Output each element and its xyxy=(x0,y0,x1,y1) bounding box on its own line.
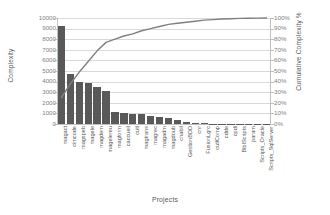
category-slot: magele xyxy=(84,126,93,194)
axis-tick-label: 4000 xyxy=(16,78,56,84)
category-slot: caccueil xyxy=(119,126,128,194)
axis-tick-mark xyxy=(271,92,274,93)
category-slot: Scripts_Oracle xyxy=(253,126,262,194)
axis-tick-mark xyxy=(54,39,57,40)
axis-tick-label: 9000 xyxy=(16,25,56,31)
x-axis-title: Projects xyxy=(0,196,330,203)
category-slot: cdde xyxy=(218,126,227,194)
plot-area xyxy=(57,18,271,124)
axis-tick-label: 10000 xyxy=(16,15,56,21)
category-slot: BiblScripts xyxy=(235,126,244,194)
axis-tick-label: 60% xyxy=(274,57,314,63)
axis-tick-mark xyxy=(54,60,57,61)
axis-tick-mark xyxy=(54,113,57,114)
category-slot: magelereu xyxy=(102,126,111,194)
axis-tick-label: 70% xyxy=(274,47,314,53)
category-slot: Scripts_SqlServer xyxy=(262,126,271,194)
axis-tick-label: 0 xyxy=(16,121,56,127)
axis-tick-label: 50% xyxy=(274,68,314,74)
category-slot: magact xyxy=(57,126,66,194)
category-slot: cimcode xyxy=(66,126,75,194)
axis-tick-label: 7000 xyxy=(16,47,56,53)
axis-tick-mark xyxy=(271,103,274,104)
category-label: Scripts_SqlServer xyxy=(269,126,275,171)
axis-tick-label: 1000 xyxy=(16,110,56,116)
axis-tick-label: 80% xyxy=(274,36,314,42)
axis-tick-mark xyxy=(54,29,57,30)
category-slot: magrec xyxy=(146,126,155,194)
axis-tick-mark xyxy=(54,71,57,72)
category-slot: magspeb xyxy=(75,126,84,194)
axis-tick-label: 40% xyxy=(274,78,314,84)
category-slot: param xyxy=(244,126,253,194)
pareto-chart: Complexity Cumulative Complexity % Proje… xyxy=(0,0,330,215)
category-slot: cpdi xyxy=(227,126,236,194)
axis-tick-mark xyxy=(54,82,57,83)
axis-tick-label: 90% xyxy=(274,25,314,31)
axis-tick-mark xyxy=(54,50,57,51)
category-slot: cutl xyxy=(128,126,137,194)
axis-tick-label: 3000 xyxy=(16,89,56,95)
axis-tick-label: 100% xyxy=(274,15,314,21)
category-slot: cutlComp xyxy=(209,126,218,194)
category-slot: GestionBDD xyxy=(182,126,191,194)
axis-tick-mark xyxy=(271,71,274,72)
category-slot: magadm xyxy=(155,126,164,194)
category-slot: magdoub xyxy=(164,126,173,194)
category-slot: cnr xyxy=(191,126,200,194)
axis-tick-mark xyxy=(271,18,274,19)
axis-tick-mark xyxy=(271,39,274,40)
axis-tick-label: 20% xyxy=(274,100,314,106)
axis-tick-label: 8000 xyxy=(16,36,56,42)
axis-tick-mark xyxy=(54,103,57,104)
axis-tick-label: 30% xyxy=(274,89,314,95)
axis-tick-mark xyxy=(54,92,57,93)
axis-tick-mark xyxy=(271,29,274,30)
category-slot: chabil xyxy=(173,126,182,194)
axis-tick-mark xyxy=(54,124,57,125)
x-axis-category-labels: magactcimcodemagspebmagelemagdemmagelere… xyxy=(57,126,271,194)
axis-tick-label: 2000 xyxy=(16,100,56,106)
axis-tick-label: 10% xyxy=(274,110,314,116)
axis-tick-mark xyxy=(271,60,274,61)
category-slot: magform xyxy=(111,126,120,194)
axis-tick-mark xyxy=(271,82,274,83)
category-slot: FusionLgrc xyxy=(200,126,209,194)
axis-tick-label: 6000 xyxy=(16,57,56,63)
axis-tick-mark xyxy=(271,50,274,51)
axis-tick-label: 5000 xyxy=(16,68,56,74)
category-slot: magdem xyxy=(93,126,102,194)
axis-tick-mark xyxy=(54,18,57,19)
cumulative-line-series xyxy=(57,18,271,124)
axis-tick-mark xyxy=(271,113,274,114)
category-slot: magtrans xyxy=(137,126,146,194)
y-axis-left-title: Complexity xyxy=(7,32,14,100)
axis-tick-label: 0% xyxy=(274,121,314,127)
